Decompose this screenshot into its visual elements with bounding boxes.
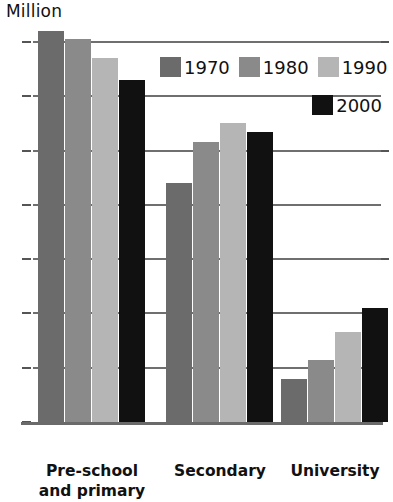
y-axis-tick-right (381, 258, 389, 260)
legend-swatch (312, 95, 333, 115)
y-axis-tick (22, 95, 31, 97)
x-axis-baseline (21, 422, 383, 425)
category-label: University (270, 462, 393, 482)
legend-label: 1990 (342, 57, 388, 78)
y-axis-tick-right (381, 150, 389, 152)
y-axis-tick (22, 204, 31, 206)
y-axis-tick (22, 150, 31, 152)
legend-item: 2000 (312, 95, 382, 116)
bar (220, 123, 246, 422)
legend-swatch (239, 57, 260, 77)
category-label: Pre-school and primary (27, 462, 157, 502)
legend-item: 1970 (160, 57, 239, 78)
category-label: Secondary (155, 462, 285, 482)
legend-item: 1990 (318, 57, 393, 78)
y-axis-tick (22, 258, 31, 260)
bar (308, 360, 334, 422)
y-axis-tick (22, 41, 31, 43)
bar (65, 39, 91, 422)
chart-title: Million (6, 1, 62, 21)
bar (119, 80, 145, 422)
y-axis-tick (22, 312, 31, 314)
legend-label: 1980 (263, 57, 309, 78)
legend-swatch (318, 57, 339, 77)
legend-label: 2000 (336, 95, 382, 116)
bar (281, 379, 307, 422)
bar (362, 308, 388, 422)
legend-row-2: 2000 (160, 90, 382, 120)
bar (38, 31, 64, 422)
legend-swatch (160, 57, 181, 77)
bar (247, 132, 273, 422)
legend-label: 1970 (184, 57, 230, 78)
y-axis-tick-right (381, 41, 389, 43)
bar (92, 58, 118, 422)
legend-item: 1980 (239, 57, 318, 78)
legend: 197019801990 2000 (160, 52, 382, 120)
bar (166, 183, 192, 422)
y-axis-tick (22, 367, 31, 369)
legend-row-1: 197019801990 (160, 52, 382, 82)
bar (335, 332, 361, 422)
bar (193, 142, 219, 422)
